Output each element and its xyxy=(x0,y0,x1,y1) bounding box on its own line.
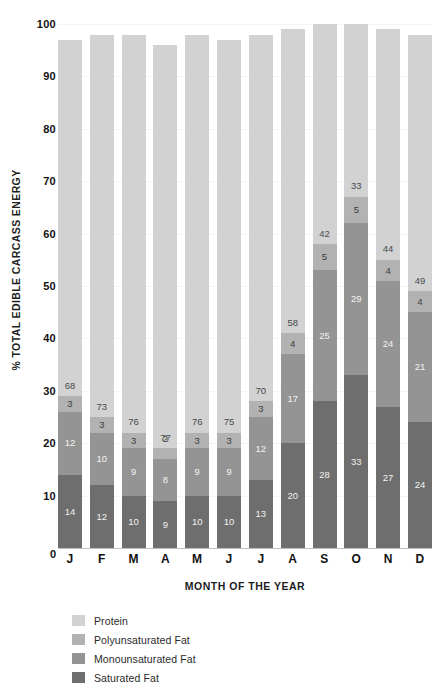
legend-item-3[interactable]: Saturated Fat xyxy=(72,669,196,686)
bar-segment-sat[interactable]: 28 xyxy=(313,401,337,548)
bar-segment-mono[interactable]: 21 xyxy=(408,312,432,422)
bar-segment-protein[interactable]: 58 xyxy=(281,29,305,333)
bar-segment-sat[interactable]: 14 xyxy=(58,475,82,548)
bar-segment-mono[interactable]: 9 xyxy=(217,448,241,495)
bar-segment-value: 12 xyxy=(256,444,267,454)
bar-3[interactable]: 77289 xyxy=(153,24,177,548)
bar-2[interactable]: 763910 xyxy=(122,24,146,548)
bar-segment-poly[interactable]: 4 xyxy=(281,333,305,354)
bar-segment-sat[interactable]: 9 xyxy=(153,501,177,548)
legend-item-2[interactable]: Monounsaturated Fat xyxy=(72,650,196,667)
bar-segment-value: 3 xyxy=(195,436,200,446)
bar-segment-mono[interactable]: 8 xyxy=(153,459,177,501)
bar-segment-value: 9 xyxy=(226,467,231,477)
x-axis-tick-11: D xyxy=(408,552,432,572)
y-axis-tick-60: 60 xyxy=(43,228,56,240)
bar-segment-poly[interactable]: 5 xyxy=(344,197,368,223)
legend-label: Saturated Fat xyxy=(94,672,159,684)
bar-segment-sat[interactable]: 33 xyxy=(344,375,368,548)
bar-segment-value: 73 xyxy=(97,402,108,412)
legend-label: Monounsaturated Fat xyxy=(94,653,196,665)
bar-8[interactable]: 4252528 xyxy=(313,24,337,548)
bar-segment-mono[interactable]: 9 xyxy=(122,448,146,495)
bar-segment-mono[interactable]: 10 xyxy=(90,433,114,485)
x-axis-tick-3: A xyxy=(153,552,177,572)
bar-7[interactable]: 5841720 xyxy=(281,24,305,548)
bar-segment-value: 75 xyxy=(224,417,235,427)
bar-segment-poly[interactable]: 4 xyxy=(408,291,432,312)
x-axis-tick-1: F xyxy=(90,552,114,572)
bar-6[interactable]: 7031213 xyxy=(249,24,273,548)
bar-segment-value: 5 xyxy=(322,252,327,262)
x-axis-tick-4: M xyxy=(185,552,209,572)
bar-segment-protein[interactable]: 76 xyxy=(185,35,209,433)
bar-11[interactable]: 4942124 xyxy=(408,24,432,548)
bar-segment-sat[interactable]: 24 xyxy=(408,422,432,548)
bar-segment-sat[interactable]: 27 xyxy=(376,407,400,548)
bar-segment-mono[interactable]: 24 xyxy=(376,281,400,407)
bar-segment-mono[interactable]: 9 xyxy=(185,448,209,495)
x-axis-tick-9: O xyxy=(344,552,368,572)
legend-item-0[interactable]: Protein xyxy=(72,612,196,629)
bar-segment-value: 27 xyxy=(383,473,394,483)
bar-segment-mono[interactable]: 12 xyxy=(58,412,82,475)
bar-segment-poly[interactable]: 3 xyxy=(185,433,209,449)
bar-segment-poly[interactable]: 2 xyxy=(153,448,177,458)
bar-segment-protein[interactable]: 44 xyxy=(376,29,400,260)
bar-segment-value: 44 xyxy=(383,244,394,254)
bar-segment-value: 33 xyxy=(351,457,362,467)
bar-segment-sat[interactable]: 10 xyxy=(185,496,209,548)
bar-segment-sat[interactable]: 10 xyxy=(122,496,146,548)
bar-segment-sat[interactable]: 10 xyxy=(217,496,241,548)
bar-segment-sat[interactable]: 12 xyxy=(90,485,114,548)
bar-segment-value: 3 xyxy=(67,399,72,409)
bar-9[interactable]: 3352933 xyxy=(344,24,368,548)
bar-segment-protein[interactable]: 49 xyxy=(408,35,432,292)
bar-segment-poly[interactable]: 3 xyxy=(90,417,114,433)
bar-segment-protein[interactable]: 33 xyxy=(344,24,368,197)
bar-segment-value: 28 xyxy=(319,470,330,480)
bar-segment-mono[interactable]: 29 xyxy=(344,223,368,375)
bar-segment-poly[interactable]: 5 xyxy=(313,244,337,270)
bar-segment-protein[interactable]: 75 xyxy=(217,40,241,433)
x-axis-tick-5: J xyxy=(217,552,241,572)
bar-segment-mono[interactable]: 12 xyxy=(249,417,273,480)
bar-segment-value: 25 xyxy=(319,331,330,341)
bar-segment-poly[interactable]: 3 xyxy=(58,396,82,412)
bar-segment-protein[interactable]: 68 xyxy=(58,40,82,396)
bar-segment-protein[interactable]: 77 xyxy=(153,45,177,448)
legend-swatch-icon xyxy=(72,634,85,645)
x-axis-tick-2: M xyxy=(122,552,146,572)
bar-segment-value: 33 xyxy=(351,181,362,191)
bar-segment-sat[interactable]: 20 xyxy=(281,443,305,548)
bar-segment-value: 2 xyxy=(163,434,168,444)
legend-swatch-icon xyxy=(72,615,85,626)
legend-item-1[interactable]: Polyunsaturated Fat xyxy=(72,631,196,648)
bar-4[interactable]: 763910 xyxy=(185,24,209,548)
bar-segment-mono[interactable]: 17 xyxy=(281,354,305,443)
bar-group: 6831214733101276391077289763910753910703… xyxy=(58,24,432,548)
bar-segment-sat[interactable]: 13 xyxy=(249,480,273,548)
bar-segment-value: 14 xyxy=(65,507,76,517)
bar-segment-poly[interactable]: 3 xyxy=(122,433,146,449)
bar-segment-poly[interactable]: 4 xyxy=(376,260,400,281)
bar-segment-value: 4 xyxy=(385,266,390,276)
bar-1[interactable]: 7331012 xyxy=(90,24,114,548)
bar-segment-value: 49 xyxy=(415,276,426,286)
bar-segment-value: 3 xyxy=(131,436,136,446)
bar-segment-mono[interactable]: 25 xyxy=(313,270,337,401)
bar-segment-protein[interactable]: 42 xyxy=(313,24,337,244)
bar-segment-value: 12 xyxy=(65,438,76,448)
bar-segment-poly[interactable]: 3 xyxy=(217,433,241,449)
bar-segment-protein[interactable]: 76 xyxy=(122,35,146,433)
bar-0[interactable]: 6831214 xyxy=(58,24,82,548)
y-axis-tick-80: 80 xyxy=(43,123,56,135)
bar-segment-protein[interactable]: 73 xyxy=(90,35,114,418)
bar-5[interactable]: 753910 xyxy=(217,24,241,548)
bar-segment-protein[interactable]: 70 xyxy=(249,35,273,402)
bar-segment-poly[interactable]: 3 xyxy=(249,401,273,417)
bar-10[interactable]: 4442427 xyxy=(376,24,400,548)
bar-segment-value: 9 xyxy=(195,467,200,477)
bar-segment-value: 29 xyxy=(351,294,362,304)
x-axis-tick-0: J xyxy=(58,552,82,572)
